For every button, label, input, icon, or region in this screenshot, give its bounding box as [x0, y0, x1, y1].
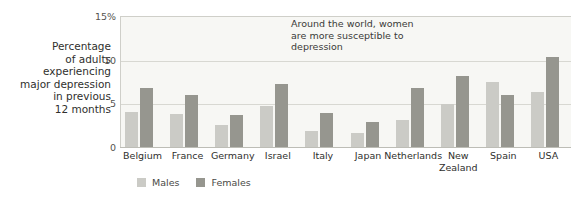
x-axis-tick-label: Japan: [355, 150, 382, 162]
bar-female: [275, 84, 288, 147]
bar-group: [482, 17, 527, 147]
legend-item-females[interactable]: Females: [196, 177, 250, 188]
x-axis-tick-label: Italy: [313, 150, 334, 162]
legend-swatch-icon: [196, 178, 205, 187]
bar-male: [531, 92, 544, 147]
x-axis-line: [120, 147, 571, 148]
bar-group: [121, 17, 166, 147]
annotation-line: are more susceptible to: [291, 30, 414, 42]
bar-female: [546, 57, 559, 147]
bar-male: [351, 133, 364, 147]
bar-female: [140, 88, 153, 147]
legend-item-males[interactable]: Males: [137, 177, 179, 188]
legend-label: Males: [152, 177, 179, 188]
bar-male: [125, 112, 138, 147]
bar-female: [230, 115, 243, 147]
chart-figure: Percentageof adultsexperiencingmajor dep…: [0, 0, 571, 201]
bar-male: [396, 120, 409, 147]
y-axis-tick-labels: 051015%: [92, 0, 116, 201]
annotation-line: Around the world, women: [291, 18, 414, 30]
bar-group: [437, 17, 482, 147]
bar-male: [215, 125, 228, 147]
bar-male: [305, 131, 318, 147]
x-axis-tick-label: Spain: [490, 150, 517, 162]
y-axis-tick-label: 0: [110, 142, 116, 153]
bar-male: [441, 104, 454, 147]
bar-female: [366, 122, 379, 147]
bar-male: [170, 114, 183, 147]
bar-group: [527, 17, 571, 147]
x-axis-tick-label: USA: [539, 150, 559, 162]
x-axis-tick-label: France: [172, 150, 204, 162]
legend-swatch-icon: [137, 178, 146, 187]
bar-group: [211, 17, 256, 147]
chart-annotation: Around the world, womenare more suscepti…: [291, 18, 414, 53]
y-axis-tick-label: 10: [104, 54, 116, 65]
bar-female: [456, 76, 469, 147]
x-axis-tick-label: Belgium: [123, 150, 162, 162]
x-axis-tick-label: Israel: [265, 150, 291, 162]
legend-label: Females: [211, 177, 250, 188]
x-axis-tick-label: New Zealand: [439, 150, 478, 173]
annotation-line: depression: [291, 41, 414, 53]
bar-female: [501, 95, 514, 147]
bar-group: [166, 17, 211, 147]
chart-legend: MalesFemales: [137, 177, 251, 188]
bar-male: [486, 82, 499, 147]
bar-female: [411, 88, 424, 147]
bar-female: [320, 113, 333, 147]
y-axis-tick-label: 5: [110, 98, 116, 109]
x-axis-tick-label: Netherlands: [384, 150, 442, 162]
bar-male: [260, 106, 273, 147]
x-axis-tick-label: Germany: [211, 150, 255, 162]
x-axis-tick-labels: BelgiumFranceGermanyIsraelItalyJapanNeth…: [120, 150, 571, 176]
bar-female: [185, 95, 198, 147]
y-axis-tick-label: 15%: [95, 11, 116, 22]
